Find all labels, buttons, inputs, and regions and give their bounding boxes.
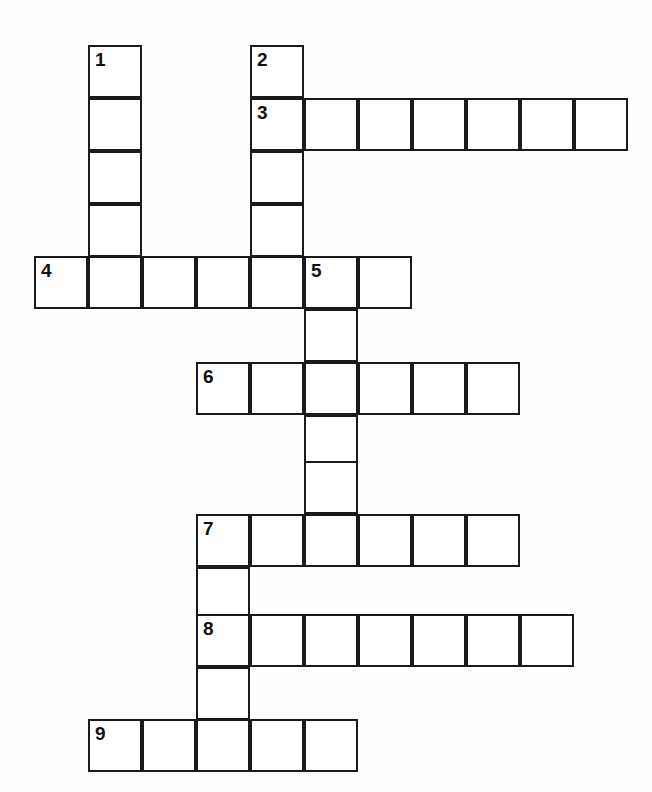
crossword-cell[interactable] bbox=[88, 204, 142, 257]
crossword-cell-numbered[interactable]: 5 bbox=[304, 256, 358, 309]
crossword-cell[interactable] bbox=[142, 719, 196, 772]
crossword-cell[interactable] bbox=[358, 256, 412, 309]
crossword-cell[interactable] bbox=[142, 256, 196, 309]
crossword-cell[interactable] bbox=[88, 98, 142, 151]
crossword-cell-numbered[interactable]: 3 bbox=[250, 98, 304, 151]
crossword-cell[interactable] bbox=[250, 362, 304, 415]
crossword-cell-numbered[interactable]: 7 bbox=[196, 514, 250, 567]
crossword-cell[interactable] bbox=[574, 98, 628, 151]
crossword-cell[interactable] bbox=[358, 514, 412, 567]
crossword-cell[interactable] bbox=[250, 614, 304, 667]
crossword-cell-numbered[interactable]: 4 bbox=[34, 256, 88, 309]
crossword-cell[interactable] bbox=[250, 514, 304, 567]
crossword-cell[interactable] bbox=[304, 362, 358, 415]
crossword-grid: 123456789 bbox=[0, 0, 652, 792]
crossword-cell[interactable] bbox=[412, 514, 466, 567]
crossword-cell-numbered[interactable]: 6 bbox=[196, 362, 250, 415]
crossword-cell-numbered[interactable]: 8 bbox=[196, 614, 250, 667]
crossword-cell[interactable] bbox=[196, 667, 250, 720]
crossword-cell[interactable] bbox=[358, 614, 412, 667]
crossword-cell-numbered[interactable]: 1 bbox=[88, 45, 142, 98]
crossword-cell[interactable] bbox=[250, 719, 304, 772]
crossword-cell[interactable] bbox=[466, 362, 520, 415]
crossword-cell[interactable] bbox=[250, 256, 304, 309]
crossword-cell-numbered[interactable]: 9 bbox=[88, 719, 142, 772]
clue-number-5: 5 bbox=[311, 261, 322, 281]
clue-number-1: 1 bbox=[95, 50, 106, 70]
crossword-cell[interactable] bbox=[304, 719, 358, 772]
crossword-cell[interactable] bbox=[304, 98, 358, 151]
crossword-cell[interactable] bbox=[88, 256, 142, 309]
crossword-cell[interactable] bbox=[196, 719, 250, 772]
crossword-cell[interactable] bbox=[412, 98, 466, 151]
crossword-cell[interactable] bbox=[466, 614, 520, 667]
crossword-cell[interactable] bbox=[520, 98, 574, 151]
crossword-cell-numbered[interactable]: 2 bbox=[250, 45, 304, 98]
crossword-cell[interactable] bbox=[466, 98, 520, 151]
crossword-cell[interactable] bbox=[304, 461, 358, 514]
crossword-cell[interactable] bbox=[88, 151, 142, 204]
crossword-cell[interactable] bbox=[304, 514, 358, 567]
crossword-cell[interactable] bbox=[304, 614, 358, 667]
clue-number-4: 4 bbox=[41, 261, 52, 281]
crossword-cell[interactable] bbox=[250, 204, 304, 257]
clue-number-6: 6 bbox=[203, 367, 214, 387]
clue-number-3: 3 bbox=[257, 103, 268, 123]
crossword-cell[interactable] bbox=[412, 362, 466, 415]
crossword-cell[interactable] bbox=[358, 362, 412, 415]
crossword-cell[interactable] bbox=[196, 567, 250, 620]
crossword-cell[interactable] bbox=[304, 309, 358, 362]
crossword-cell[interactable] bbox=[196, 256, 250, 309]
crossword-cell[interactable] bbox=[358, 98, 412, 151]
clue-number-2: 2 bbox=[257, 50, 268, 70]
crossword-cell[interactable] bbox=[466, 514, 520, 567]
clue-number-7: 7 bbox=[203, 519, 214, 539]
clue-number-9: 9 bbox=[95, 724, 106, 744]
crossword-cell[interactable] bbox=[412, 614, 466, 667]
clue-number-8: 8 bbox=[203, 619, 214, 639]
crossword-cell[interactable] bbox=[520, 614, 574, 667]
crossword-cell[interactable] bbox=[250, 151, 304, 204]
